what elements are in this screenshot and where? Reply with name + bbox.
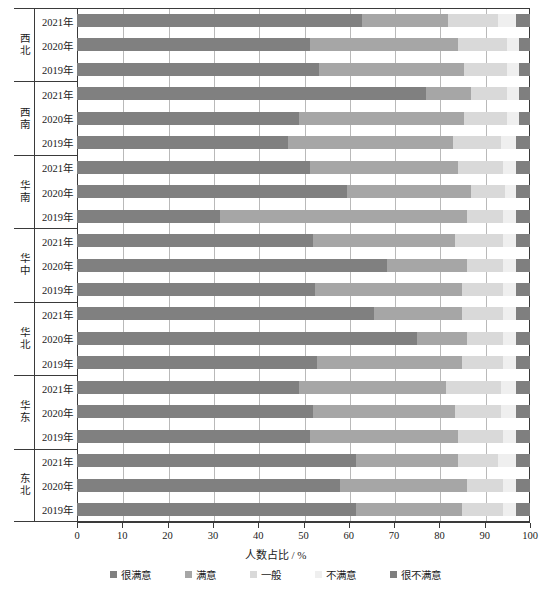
x-tick [213,523,214,528]
bar-segment [288,136,453,149]
x-tick-label: 50 [298,530,309,541]
bar-segment [516,210,530,223]
year-label: 2021年 [35,156,77,180]
bar-row [77,307,530,320]
year-label: 2021年 [35,376,77,400]
bar-segment [77,63,319,76]
bar-segment [455,234,503,247]
bar-segment [347,185,472,198]
bar-segment [471,185,505,198]
x-tick-label: 80 [434,530,445,541]
bar-segment [467,332,503,345]
bar-segment [462,503,503,516]
bar-segment [516,234,530,247]
x-tick [439,523,440,528]
bar-segment [458,161,503,174]
bar-row [77,283,530,296]
legend-item[interactable]: 很满意 [110,567,151,582]
year-label: 2019年 [35,57,77,81]
bar-row [77,112,530,125]
bar-row [77,454,530,467]
bar-segment [507,38,518,51]
legend-item[interactable]: 一般 [250,567,281,582]
legend-swatch-icon [315,571,322,578]
bar-segment [503,479,517,492]
year-label: 2021年 [35,82,77,106]
x-tick [394,523,395,528]
bar-row [77,381,530,394]
bar-segment [387,259,466,272]
x-tick-label: 20 [162,530,173,541]
bar-row [77,14,530,27]
bar-segment [519,112,530,125]
bar-segment [516,332,530,345]
legend-item[interactable]: 不满意 [315,567,356,582]
bar-segment [501,405,517,418]
bar-segment [516,283,530,296]
bar-segment [77,454,356,467]
bar-segment [77,38,310,51]
bar-segment [503,430,517,443]
bar-segment [77,479,340,492]
bar-segment [310,161,457,174]
x-tick-label: 100 [522,530,538,541]
bar-segment [458,430,503,443]
bar-segment [498,14,516,27]
bar-segment [310,38,457,51]
bar-segment [516,307,530,320]
bar-segment [77,136,288,149]
x-tick [77,523,78,528]
bar-segment [77,430,310,443]
bar-segment [362,14,448,27]
year-label: 2021年 [35,229,77,253]
bar-segment [516,479,530,492]
legend-item[interactable]: 很不满意 [390,567,441,582]
region-label: 西南 [14,82,35,154]
legend-label: 不满意 [326,567,356,582]
bar-segment [498,454,516,467]
bar-segment [501,381,517,394]
year-label: 2021年 [35,303,77,327]
bar-segment [462,283,503,296]
bar-segment [519,87,530,100]
legend-item[interactable]: 满意 [185,567,216,582]
x-tick-label: 90 [479,530,490,541]
year-label: 2021年 [35,9,77,33]
x-tick [258,523,259,528]
bar-segment [299,112,464,125]
year-label: 2019年 [35,424,77,448]
bar-segment [458,38,508,51]
bar-segment [462,307,503,320]
bar-row [77,161,530,174]
bar-segment [220,210,467,223]
bar-segment [503,307,517,320]
region-group: 西北2021年2020年2019年 [14,8,77,81]
y-axis: 西北2021年2020年2019年西南2021年2020年2019年华南2021… [14,8,77,522]
bar-segment [519,38,530,51]
bar-segment [77,14,362,27]
bar-segment [374,307,462,320]
bar-row [77,332,530,345]
legend-label: 一般 [261,567,281,582]
bar-segment [77,234,313,247]
year-label: 2020年 [35,253,77,277]
bar-segment [77,405,313,418]
bar-segment [501,136,517,149]
year-label: 2021年 [35,450,77,474]
bar-row [77,430,530,443]
region-label: 华南 [14,156,35,228]
region-label: 东北 [14,450,35,521]
year-label: 2020年 [35,33,77,57]
bars-layer [77,8,530,522]
x-tick-label: 70 [389,530,400,541]
bar-segment [516,185,530,198]
bar-segment [516,161,530,174]
bar-segment [503,332,517,345]
x-tick-label: 0 [74,530,79,541]
legend: 很满意满意一般不满意很不满意 [0,567,551,582]
bar-segment [77,87,426,100]
bar-segment [467,479,503,492]
bar-segment [516,14,530,27]
bar-segment [448,14,498,27]
bar-segment [516,454,530,467]
